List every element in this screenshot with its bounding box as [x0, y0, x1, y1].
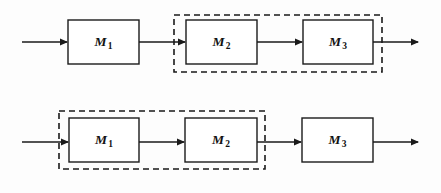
arrow-m2-to-m3 — [257, 138, 302, 145]
block-top-m1[interactable]: M1 — [68, 20, 139, 64]
arrow-m2-to-m3-head — [294, 138, 302, 145]
input-arrow-head — [61, 138, 69, 145]
arrow-m2-to-m3-head — [295, 38, 303, 45]
bottom-configuration: M1M2M3 — [22, 111, 419, 169]
arrow-m2-to-m3 — [257, 38, 303, 45]
input-arrow — [22, 38, 68, 45]
block-top-m2[interactable]: M2 — [186, 20, 257, 64]
output-arrow-head — [411, 138, 419, 145]
input-arrow-head — [60, 38, 68, 45]
output-arrow-head — [411, 38, 419, 45]
block-bot-m1[interactable]: M1 — [69, 118, 139, 162]
block-bot-m3[interactable]: M3 — [302, 118, 373, 162]
block-top-m3[interactable]: M3 — [303, 20, 373, 64]
arrow-m1-to-m2-head — [178, 38, 186, 45]
diagram-canvas: M1M2M3M1M2M3 — [0, 0, 441, 193]
arrow-m1-to-m2 — [139, 138, 185, 145]
block-diagram: M1M2M3M1M2M3 — [0, 0, 441, 193]
arrow-m1-to-m2 — [139, 38, 186, 45]
output-arrow — [373, 138, 419, 145]
block-bot-m2[interactable]: M2 — [185, 118, 257, 162]
input-arrow — [22, 138, 69, 145]
top-configuration: M1M2M3 — [22, 15, 419, 72]
arrow-m1-to-m2-head — [177, 138, 185, 145]
output-arrow — [373, 38, 419, 45]
